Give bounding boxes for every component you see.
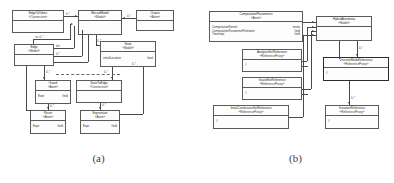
uml-class-analysissetreference[interactable]: AnalysisSetReference «ReferenceProxy» # (242, 49, 302, 72)
uml-attribute-compartment (77, 90, 121, 102)
uml-attribute-compartment (317, 26, 371, 40)
multiplicity-label: src 0..* (35, 35, 44, 39)
uml-diagram-b: ComputationParameters «Atom» Computation… (197, 0, 394, 145)
uml-attribute-row: # (216, 120, 286, 124)
uml-attribute-name: initialLocation: (103, 57, 122, 61)
multiplicity-label: 0..* (132, 62, 136, 66)
uml-class-header: AnalysisSetReference «ReferenceProxy» (243, 50, 301, 59)
uml-attribute-compartment: # (214, 115, 288, 128)
uml-class-stereotype: «Model» (94, 16, 106, 19)
uml-attribute-compartment (15, 54, 53, 65)
connector-line (303, 35, 304, 117)
uml-attribute-name: # (326, 72, 328, 76)
uml-attribute-compartment: Expr: field (81, 120, 119, 133)
uml-class-stereotype: «ReferenceProxy» (340, 111, 365, 114)
uml-attribute-name: Expr: (33, 125, 40, 129)
uml-class-header: InitialContinuousSetReference «Reference… (214, 106, 288, 115)
uml-class-invariantreference[interactable]: InvariantReference «ReferenceProxy» # (325, 105, 379, 129)
uml-class-output[interactable]: Output «Atom» (136, 10, 174, 31)
connector-line (26, 110, 32, 111)
connector-line (54, 56, 82, 57)
uml-attribute-row: # (245, 64, 299, 68)
multiplicity-label: dst (56, 44, 60, 48)
connector-line (120, 114, 143, 115)
uml-class-expression[interactable]: Expression «Atom» Expr: field (80, 110, 120, 134)
uml-attribute-compartment: Expr: field (31, 120, 65, 133)
uml-class-guardsetreference[interactable]: GuardSetReference «ReferenceProxy» # (242, 77, 302, 100)
connector-arrowhead-icon (348, 102, 350, 104)
uml-class-computationparameters[interactable]: ComputationParameters «Atom» Computation… (209, 11, 303, 42)
uml-attribute-compartment: ComputationKernel: enum ComputationParam… (210, 21, 302, 41)
uml-class-stereotype: «ReferenceProxy» (260, 55, 285, 58)
uml-class-discretemodereference[interactable]: DiscreteModeReference «ReferenceProxy» # (323, 57, 389, 81)
uml-class-header: Reset «Atom» (31, 111, 65, 120)
uml-attribute-name: Expr: (38, 95, 45, 99)
connector-line (26, 66, 27, 110)
connector-arrowhead-icon (356, 54, 358, 56)
uml-attribute-compartment: # (243, 87, 301, 99)
uml-attribute-type: field (60, 95, 68, 99)
uml-class-edgetotoken[interactable]: EdgeToToken «Connection» (12, 10, 64, 33)
uml-class-hybridautomata[interactable]: HybridAutomata «Model» (316, 16, 372, 41)
multiplicity-label: 0..* (359, 46, 363, 50)
figure-panel-b: ComputationParameters «Atom» Computation… (197, 0, 394, 183)
connector-arrowhead-icon (312, 30, 314, 32)
uml-attribute-type: field (109, 125, 117, 129)
uml-class-reset[interactable]: Reset «Atom» Expr: field (30, 110, 66, 134)
uml-class-stereotype: «Connection» (29, 16, 48, 19)
uml-attribute-name: # (216, 120, 218, 124)
uml-class-header: InvariantReference «ReferenceProxy» (326, 106, 378, 115)
uml-attribute-compartment (137, 20, 173, 30)
connector-arrowhead-icon (75, 15, 77, 17)
connector-line (143, 67, 144, 114)
uml-attribute-row: # (328, 120, 376, 124)
multiplicity-label: 0..* (56, 52, 60, 56)
connector-line (302, 94, 308, 95)
uml-class-stereotype: «Connection» (90, 86, 109, 89)
uml-attribute-compartment (13, 20, 63, 32)
connector-arrowhead-icon (312, 26, 314, 28)
uml-attribute-row: # (326, 72, 386, 76)
uml-class-edge[interactable]: Edge «Model» (14, 44, 54, 66)
uml-class-initialcontinuoussetreference[interactable]: InitialContinuousSetReference «Reference… (213, 105, 289, 129)
uml-class-header: ComputationParameters «Atom» (210, 12, 302, 21)
multiplicity-label: 0..* (127, 14, 131, 18)
uml-attribute-compartment: # (324, 67, 388, 80)
uml-attribute-compartment (79, 20, 121, 34)
uml-class-stereotype: «Atom» (95, 116, 105, 119)
uml-class-header: Edge «Model» (15, 45, 53, 54)
connector-line (74, 26, 75, 48)
uml-class-header: Expression «Atom» (81, 111, 119, 120)
connector-line (303, 22, 316, 23)
uml-attribute-name: # (245, 64, 247, 68)
connector-arrowhead-icon (47, 107, 49, 109)
uml-attribute-row: Expr: field (38, 95, 68, 99)
multiplicity-label: 0..* (97, 39, 101, 43)
uml-class-header: State «Model» (101, 42, 155, 51)
connector-arrowhead-icon (71, 23, 73, 25)
uml-class-stereotype: «Atom» (150, 16, 160, 19)
uml-class-stereotype: «Atom» (43, 116, 53, 119)
connector-line-dashed (56, 74, 120, 75)
connector-line (339, 41, 340, 59)
uml-class-stereotype: «ReferenceProxy» (239, 111, 264, 114)
uml-attribute-compartment: # (326, 115, 378, 128)
connector-line (33, 39, 70, 40)
uml-class-stereotype: «Atom» (251, 17, 261, 20)
uml-class-header: MocadModel «Model» (79, 11, 121, 20)
uml-class-guard[interactable]: Guard «Atom» Expr: field (35, 80, 71, 104)
connector-line (289, 117, 303, 118)
uml-class-stereotype: «ReferenceProxy» (260, 83, 285, 86)
uml-attribute-type: field (55, 125, 63, 129)
connector-arrowhead-icon (111, 77, 113, 79)
connector-arrowhead-icon (123, 17, 125, 19)
uml-class-statetoedge[interactable]: StateToEdge «Connection» (76, 80, 122, 103)
uml-class-mocadmodel[interactable]: MocadModel «Model» (78, 10, 122, 35)
uml-diagram-a: EdgeToToken «Connection» MocadModel «Mod… (0, 0, 197, 145)
uml-attribute-type: field (292, 33, 300, 37)
uml-class-state[interactable]: State «Model» initialLocation: bool (100, 41, 156, 67)
uml-attribute-row: Expr: field (33, 125, 63, 129)
uml-attribute-row: initialLocation: bool (103, 57, 153, 61)
uml-attribute-compartment: # (243, 59, 301, 71)
connector-line (54, 62, 88, 63)
